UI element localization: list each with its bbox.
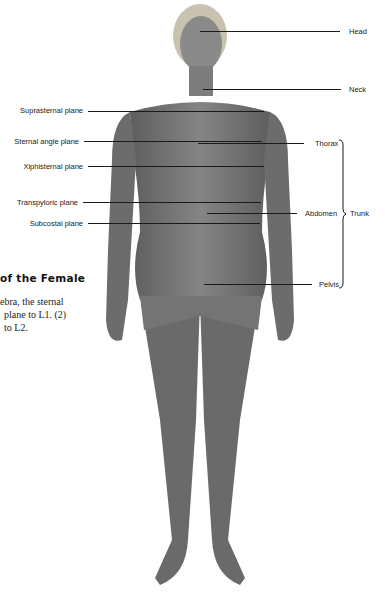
label-subcostal-plane: Subcostal plane: [30, 219, 83, 228]
label-xiphisternal-plane: Xiphisternal plane: [23, 162, 83, 171]
caption-line-3: to L2.: [4, 322, 28, 333]
label-abdomen: Abdomen: [305, 209, 337, 218]
label-pelvis: Pelvis: [319, 280, 339, 289]
leader-line-abdomen: [207, 213, 297, 214]
caption-title-fragment: of the Female: [0, 272, 85, 284]
label-trunk: Trunk: [350, 209, 369, 218]
leader-line-neck: [203, 89, 341, 90]
leader-line-transpyloric: [83, 202, 261, 203]
leader-line-subcostal: [88, 223, 260, 224]
caption-line-2: plane to L1. (2): [4, 309, 66, 320]
leader-line-suprasternal: [88, 111, 264, 112]
label-transpyloric-plane: Transpyloric plane: [17, 198, 78, 207]
label-thorax: Thorax: [315, 139, 338, 148]
label-neck: Neck: [349, 85, 366, 94]
leader-line-xiphisternal: [88, 166, 264, 167]
leader-line-pelvis: [204, 284, 312, 285]
leader-line-sternal-angle: [84, 141, 262, 142]
leader-line-thorax: [198, 143, 304, 144]
leader-line-head: [200, 31, 340, 32]
caption-line-1: ebra, the sternal: [0, 296, 64, 307]
trunk-bracket: [339, 139, 347, 289]
label-head: Head: [349, 27, 367, 36]
label-suprasternal-plane: Suprasternal plane: [20, 106, 83, 115]
label-sternal-angle-plane: Sternal angle plane: [14, 137, 79, 146]
